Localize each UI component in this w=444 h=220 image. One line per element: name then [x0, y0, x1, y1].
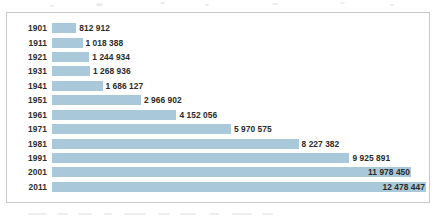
scan-speck: [124, 213, 146, 215]
bar-2001: [52, 167, 411, 177]
bar-row: 201112 478 447: [7, 180, 429, 194]
scan-speck: [104, 213, 112, 215]
category-label-1991: 1991: [7, 153, 47, 163]
bar-row: 19211 244 934: [7, 50, 429, 64]
category-label-1911: 1911: [7, 38, 47, 48]
scan-speck: [232, 213, 252, 215]
scan-speck: [50, 5, 54, 7]
value-label-1941: 1 686 127: [106, 81, 144, 91]
category-label-1921: 1921: [7, 52, 47, 62]
bar-row: 19614 152 056: [7, 108, 429, 122]
value-label-1981: 8 227 382: [302, 139, 340, 149]
value-label-1971: 5 970 575: [234, 124, 272, 134]
scan-speck: [28, 213, 46, 215]
scan-artifact-top: [0, 0, 444, 11]
bar-1981: [52, 139, 299, 149]
category-label-1931: 1931: [7, 66, 47, 76]
bar-row: 19818 227 382: [7, 136, 429, 150]
value-label-1911: 1 018 388: [86, 38, 124, 48]
bar-row: 19512 966 902: [7, 93, 429, 107]
bar-row: 19919 925 891: [7, 151, 429, 165]
scan-speck: [272, 3, 278, 5]
category-label-1981: 1981: [7, 139, 47, 149]
scan-speck: [262, 213, 273, 215]
bar-1931: [52, 66, 90, 76]
scan-speck: [96, 3, 103, 6]
bar-row: 19111 018 388: [7, 35, 429, 49]
bar-1951: [52, 95, 141, 105]
bar-1941: [52, 81, 103, 91]
bar-1961: [52, 110, 176, 120]
bar-chart-plot-area: 1901812 91219111 018 38819211 244 934193…: [7, 13, 429, 202]
bar-row: 19715 970 575: [7, 122, 429, 136]
category-label-1971: 1971: [7, 124, 47, 134]
scan-speck: [180, 213, 196, 215]
scan-speck: [158, 213, 170, 215]
category-label-1951: 1951: [7, 95, 47, 105]
value-label-2011: 12 478 447: [383, 182, 425, 192]
bar-row: 19311 268 936: [7, 64, 429, 78]
scan-speck: [58, 213, 68, 215]
scan-speck: [390, 4, 394, 6]
value-label-1921: 1 244 934: [92, 52, 130, 62]
bar-1971: [52, 124, 231, 134]
value-label-1961: 4 152 056: [179, 110, 217, 120]
scan-artifact-bottom: [0, 207, 444, 220]
value-label-1901: 812 912: [79, 23, 110, 33]
category-label-1961: 1961: [7, 110, 47, 120]
bar-row: 1901812 912: [7, 21, 429, 35]
bar-1991: [52, 153, 349, 163]
value-label-1991: 9 925 891: [352, 153, 390, 163]
bar-2011: [52, 182, 426, 192]
scan-speck: [78, 213, 92, 215]
category-label-1941: 1941: [7, 81, 47, 91]
chart-frame: 1901812 91219111 018 38819211 244 934193…: [6, 12, 430, 203]
category-label-1901: 1901: [7, 23, 47, 33]
category-label-2011: 2011: [7, 182, 47, 192]
bar-1911: [52, 38, 83, 48]
scan-speck: [210, 213, 219, 215]
value-label-1951: 2 966 902: [144, 95, 182, 105]
scan-speck: [340, 2, 345, 4]
scan-speck: [160, 2, 165, 4]
value-label-2001: 11 978 450: [368, 167, 410, 177]
bar-1921: [52, 52, 89, 62]
bar-1901: [52, 23, 76, 33]
bar-row: 19411 686 127: [7, 79, 429, 93]
bar-row: 200111 978 450: [7, 165, 429, 179]
category-label-2001: 2001: [7, 167, 47, 177]
scan-speck: [205, 4, 209, 6]
value-label-1931: 1 268 936: [93, 66, 131, 76]
